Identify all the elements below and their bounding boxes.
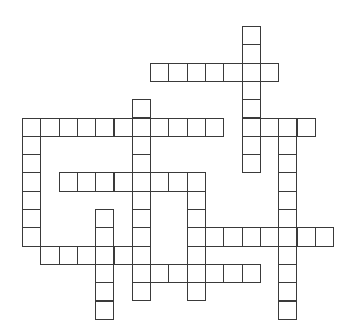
crossword-cell[interactable] [278,191,297,210]
crossword-cell[interactable] [132,227,151,246]
crossword-cell[interactable] [278,227,297,246]
crossword-cell[interactable] [260,118,279,137]
crossword-cell[interactable] [95,227,114,246]
crossword-cell[interactable] [297,227,316,246]
crossword-puzzle [0,0,354,328]
crossword-cell[interactable] [205,118,224,137]
crossword-cell[interactable] [168,264,187,283]
crossword-cell[interactable] [132,136,151,155]
crossword-cell[interactable] [77,246,96,265]
crossword-cell[interactable] [22,191,41,210]
crossword-cell[interactable] [205,63,224,82]
crossword-cell[interactable] [187,227,206,246]
crossword-cell[interactable] [59,246,78,265]
crossword-cell[interactable] [260,227,279,246]
crossword-cell[interactable] [242,227,261,246]
crossword-cell[interactable] [297,118,316,137]
crossword-cell[interactable] [205,227,224,246]
crossword-cell[interactable] [278,118,297,137]
crossword-cell[interactable] [278,172,297,191]
crossword-cell[interactable] [132,191,151,210]
crossword-cell[interactable] [242,81,261,100]
crossword-cell[interactable] [223,264,242,283]
crossword-cell[interactable] [59,118,78,137]
crossword-cell[interactable] [187,191,206,210]
crossword-cell[interactable] [315,227,334,246]
crossword-cell[interactable] [242,154,261,173]
crossword-cell[interactable] [278,301,297,320]
crossword-cell[interactable] [205,264,224,283]
crossword-cell[interactable] [95,172,114,191]
crossword-cell[interactable] [22,136,41,155]
crossword-cell[interactable] [150,118,169,137]
crossword-cell[interactable] [95,209,114,228]
crossword-cell[interactable] [150,63,169,82]
crossword-cell[interactable] [132,246,151,265]
crossword-cell[interactable] [278,246,297,265]
crossword-cell[interactable] [95,282,114,301]
crossword-cell[interactable] [242,26,261,45]
crossword-cell[interactable] [242,118,261,137]
crossword-cell[interactable] [242,264,261,283]
crossword-cell[interactable] [150,172,169,191]
crossword-cell[interactable] [132,118,151,137]
crossword-cell[interactable] [187,264,206,283]
crossword-cell[interactable] [278,264,297,283]
crossword-cell[interactable] [95,246,114,265]
crossword-cell[interactable] [40,118,59,137]
crossword-cell[interactable] [22,154,41,173]
crossword-cell[interactable] [132,154,151,173]
crossword-cell[interactable] [168,118,187,137]
crossword-cell[interactable] [59,172,78,191]
crossword-cell[interactable] [278,209,297,228]
crossword-cell[interactable] [242,99,261,118]
crossword-cell[interactable] [132,282,151,301]
crossword-cell[interactable] [95,301,114,320]
crossword-cell[interactable] [77,118,96,137]
crossword-cell[interactable] [242,136,261,155]
crossword-cell[interactable] [223,63,242,82]
crossword-cell[interactable] [132,99,151,118]
crossword-cell[interactable] [278,154,297,173]
crossword-cell[interactable] [187,209,206,228]
crossword-cell[interactable] [95,264,114,283]
crossword-cell[interactable] [150,264,169,283]
crossword-cell[interactable] [187,118,206,137]
crossword-cell[interactable] [114,118,133,137]
crossword-cell[interactable] [242,63,261,82]
crossword-cell[interactable] [22,227,41,246]
crossword-cell[interactable] [132,209,151,228]
crossword-cell[interactable] [278,136,297,155]
crossword-cell[interactable] [187,172,206,191]
crossword-cell[interactable] [22,209,41,228]
crossword-cell[interactable] [187,246,206,265]
crossword-cell[interactable] [22,118,41,137]
crossword-cell[interactable] [22,172,41,191]
crossword-cell[interactable] [278,282,297,301]
crossword-cell[interactable] [40,246,59,265]
crossword-cell[interactable] [114,246,133,265]
crossword-cell[interactable] [114,172,133,191]
crossword-grid [0,0,354,328]
crossword-cell[interactable] [132,264,151,283]
crossword-cell[interactable] [132,172,151,191]
crossword-cell[interactable] [187,63,206,82]
crossword-cell[interactable] [168,172,187,191]
crossword-cell[interactable] [260,63,279,82]
crossword-cell[interactable] [77,172,96,191]
crossword-cell[interactable] [168,63,187,82]
crossword-cell[interactable] [95,118,114,137]
crossword-cell[interactable] [187,282,206,301]
crossword-cell[interactable] [223,227,242,246]
crossword-cell[interactable] [242,44,261,63]
